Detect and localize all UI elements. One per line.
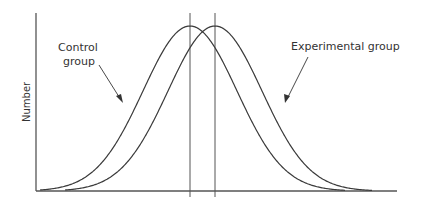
y-axis-label: Number [21, 81, 32, 122]
experimental-label: Experimental group [291, 40, 400, 53]
control-arrow [99, 65, 121, 100]
control-arrowhead [116, 94, 123, 103]
control-label-line2: group [63, 55, 95, 68]
control-label-line1: Control [58, 41, 98, 54]
distribution-diagram: Number Control group Experimental group [0, 0, 424, 206]
experimental-arrow [287, 57, 308, 99]
